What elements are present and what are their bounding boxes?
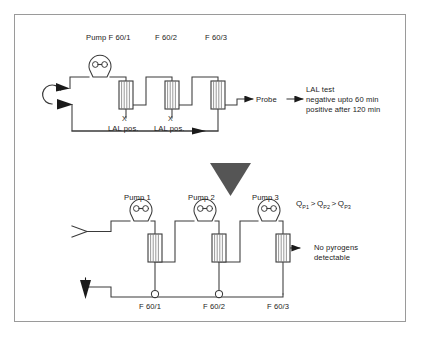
no-pyrogens-line2: detectable <box>314 253 350 263</box>
port2-label: F 60/2 <box>203 302 225 312</box>
figure-canvas: Pump F 60/1 F 60/2 F 60/3 X X LAL pos. L… <box>0 0 421 338</box>
pump1-label: Pump 1 <box>124 193 151 203</box>
lal-pos-label-2: LAL pos. <box>154 124 185 134</box>
top-filter3-label: F 60/3 <box>205 33 227 43</box>
x-mark-filter1: X <box>122 114 127 124</box>
flow-op2: > <box>330 199 338 208</box>
flow-q3-subscript: P3 <box>344 204 351 210</box>
flow-op1: > <box>309 199 317 208</box>
lal-test-positive-line: positive after 120 min <box>306 105 380 115</box>
pump2-label: Pump 2 <box>188 193 215 203</box>
x-mark-filter2: X <box>168 114 173 124</box>
flow-rate-relation: QP1>QP2>QP3 <box>296 199 351 212</box>
no-pyrogens-line1: No pyrogens <box>314 243 358 253</box>
flow-q2-subscript: P2 <box>323 204 330 210</box>
top-filter2-label: F 60/2 <box>155 33 177 43</box>
port1-label: F 60/1 <box>139 302 161 312</box>
lal-pos-label-1: LAL pos. <box>108 124 139 134</box>
top-pump-label: Pump F 60/1 <box>86 33 131 43</box>
lal-test-negative-line: negative upto 60 min <box>306 95 379 105</box>
lal-test-heading: LAL test <box>306 85 334 95</box>
port3-label: F 60/3 <box>267 302 289 312</box>
diagram-graphics <box>0 0 421 338</box>
pump3-label: Pump 3 <box>252 193 279 203</box>
probe-label: Probe <box>256 95 277 105</box>
